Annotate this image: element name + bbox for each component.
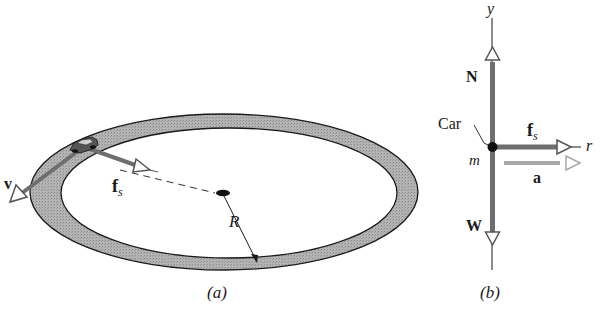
caption-a: (a) [207,283,227,302]
friction-vector-b [492,140,571,154]
car-label: Car [438,115,462,132]
acceleration-label: a [533,169,541,186]
figure: R v fs (a) y r [0,0,603,311]
center-point [216,190,230,197]
weight-label: W [466,217,482,234]
normal-force-label: N [466,68,478,85]
radius-label: R [228,212,240,231]
friction-label-b: fs [527,120,538,143]
acceleration-vector [504,156,580,170]
panel-b: y r N W fs a Car [438,0,593,302]
mass-label: m [469,152,480,168]
velocity-label: v [4,175,12,192]
normal-force-vector [486,47,500,147]
car-point [488,142,498,152]
panel-a: R v fs (a) [4,114,418,302]
y-axis-label: y [485,0,495,18]
weight-vector [486,147,500,245]
caption-b: (b) [480,283,500,302]
r-axis-label: r [586,137,593,154]
